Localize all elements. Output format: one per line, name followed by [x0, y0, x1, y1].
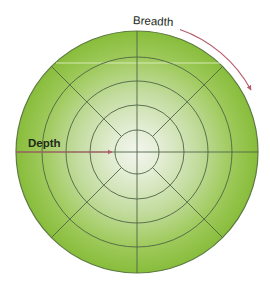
depth-label: Depth — [28, 137, 61, 149]
breadth-depth-diagram: Depth Breadth — [0, 0, 270, 292]
breadth-label: Breadth — [133, 14, 174, 28]
